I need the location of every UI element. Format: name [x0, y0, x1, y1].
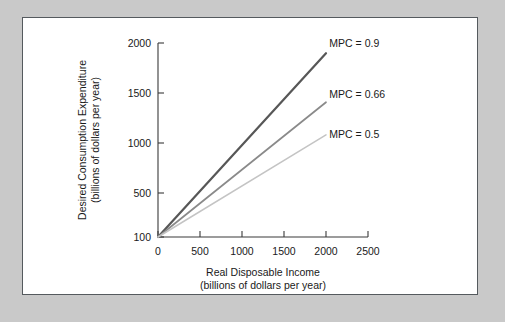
y-tick-label-1000: 1000: [128, 137, 152, 149]
x-tick-label-2500: 2500: [356, 245, 380, 257]
consumption-function-chart: 2000 1500 1000 500 100 0 500 1000 1500 2…: [23, 18, 479, 296]
x-axis-subtitle: (billions of dollars per year): [200, 279, 326, 291]
y-tick-label-500: 500: [133, 187, 151, 199]
x-tick-label-0: 0: [155, 245, 161, 257]
x-tick-label-2000: 2000: [314, 245, 338, 257]
y-tick-label-2000: 2000: [128, 37, 152, 49]
series-label-mpc-0-66: MPC = 0.66: [329, 88, 385, 100]
y-tick-label-1500: 1500: [128, 87, 152, 99]
x-tick-label-500: 500: [191, 245, 209, 257]
series-label-mpc-0-5: MPC = 0.5: [329, 128, 379, 140]
series-line-mpc-0-5: [158, 135, 326, 237]
y-axis-subtitle: (billions of dollars per year): [89, 77, 101, 203]
y-tick-label-100: 100: [133, 231, 151, 243]
y-axis-title: Desired Consumption Expenditure: [76, 60, 88, 220]
x-tick-label-1000: 1000: [230, 245, 254, 257]
figure-panel: 2000 1500 1000 500 100 0 500 1000 1500 2…: [22, 17, 478, 295]
x-axis-title: Real Disposable Income: [206, 266, 320, 278]
series-line-mpc-0-66: [158, 102, 326, 237]
series-line-mpc-0-9: [158, 53, 326, 237]
x-tick-label-1500: 1500: [272, 245, 296, 257]
series-label-mpc-0-9: MPC = 0.9: [329, 37, 379, 49]
